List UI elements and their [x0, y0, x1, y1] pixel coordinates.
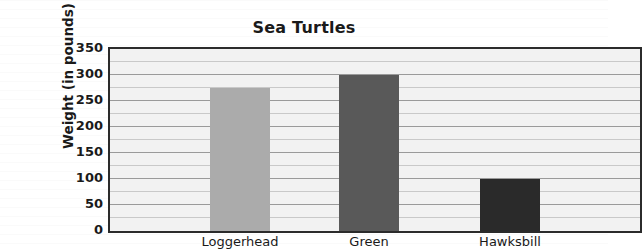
x-axis-tick-label: Loggerhead	[201, 234, 278, 249]
bar-series	[110, 49, 640, 231]
x-axis-tick-labels: LoggerheadGreenHawksbill	[108, 234, 642, 249]
y-axis-tick-label: 100	[40, 170, 103, 185]
y-axis-tick-labels: 350300250200150100500	[40, 47, 103, 229]
y-axis-tick-label: 300	[40, 66, 103, 81]
bar-green	[339, 75, 399, 231]
y-axis-tick-label: 150	[40, 144, 103, 159]
bar-hawksbill	[480, 179, 540, 231]
plot-area	[108, 47, 642, 233]
y-axis-tick-label: 200	[40, 118, 103, 133]
bar-loggerhead	[210, 88, 270, 231]
y-axis-tick-label: 50	[40, 196, 103, 211]
y-axis-tick-label: 0	[40, 222, 103, 237]
y-axis-tick-label: 250	[40, 92, 103, 107]
bar-chart-figure: Sea Turtles Weight (in pounds) 350300250…	[40, 16, 568, 233]
chart-title: Sea Turtles	[40, 18, 568, 37]
x-axis-tick-label: Green	[349, 234, 388, 249]
y-axis-tick-label: 350	[40, 40, 103, 55]
x-axis-tick-label: Hawksbill	[479, 234, 541, 249]
